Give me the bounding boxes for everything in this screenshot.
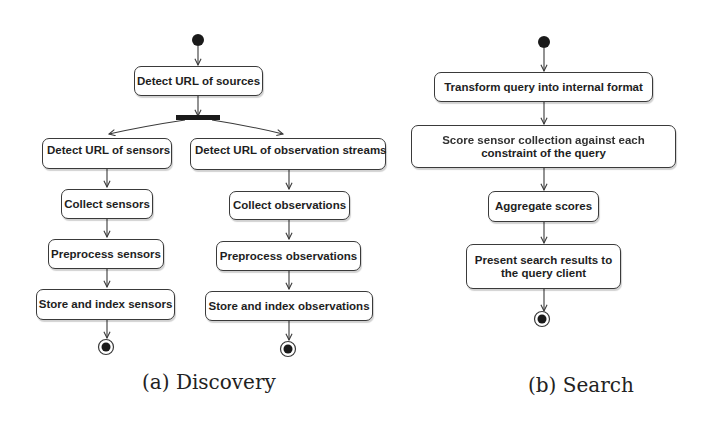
activity-label: Collect observations (233, 199, 346, 212)
observations-end-node (281, 342, 296, 357)
activity-label: Transform query into internal format (444, 81, 643, 94)
activity-collect-sensors: Collect sensors (61, 189, 153, 219)
activity-store-and-index-sensors: Store and index sensors (36, 289, 175, 320)
activity-detect-url-of-observation-streams: Detect URL of observation streams (190, 138, 386, 170)
caption-search: (b) Search (528, 373, 634, 397)
activity-label-line2: constraint of the query (481, 147, 606, 160)
activity-label: Aggregate scores (495, 200, 592, 213)
activity-collect-observations: Collect observations (229, 191, 350, 220)
activity-score-sensor-collection: Score sensor collection against each con… (411, 125, 676, 168)
activity-label: Detect URL of observation streams (195, 144, 387, 157)
search-start-node (538, 36, 550, 48)
sensors-end-node (99, 340, 114, 355)
activity-detect-url-of-sources: Detect URL of sources (134, 66, 263, 96)
activity-label: Detect URL of sensors (47, 144, 170, 157)
fork-bar (176, 115, 220, 120)
activity-label: Preprocess sensors (51, 248, 161, 261)
activity-label: Detect URL of sources (137, 75, 260, 88)
activity-label: Collect sensors (64, 198, 150, 211)
activity-store-and-index-observations: Store and index observations (205, 291, 373, 321)
activity-preprocess-observations: Preprocess observations (216, 241, 361, 271)
activity-label-line1: Present search results to (475, 254, 612, 267)
activity-preprocess-sensors: Preprocess sensors (48, 239, 164, 269)
discovery-start-node (192, 34, 204, 46)
activity-label-line1: Score sensor collection against each (442, 134, 645, 147)
activity-label: Store and index observations (208, 300, 369, 313)
activity-label: Preprocess observations (220, 250, 357, 263)
activity-present-search-results: Present search results to the query clie… (466, 244, 621, 289)
search-end-node (535, 312, 550, 327)
activity-aggregate-scores: Aggregate scores (488, 191, 599, 222)
activity-label-line2: the query client (501, 267, 586, 280)
caption-discovery: (a) Discovery (142, 370, 276, 394)
activity-label: Store and index sensors (39, 298, 173, 311)
activity-transform-query: Transform query into internal format (434, 72, 653, 102)
activity-detect-url-of-sensors: Detect URL of sensors (42, 138, 172, 169)
